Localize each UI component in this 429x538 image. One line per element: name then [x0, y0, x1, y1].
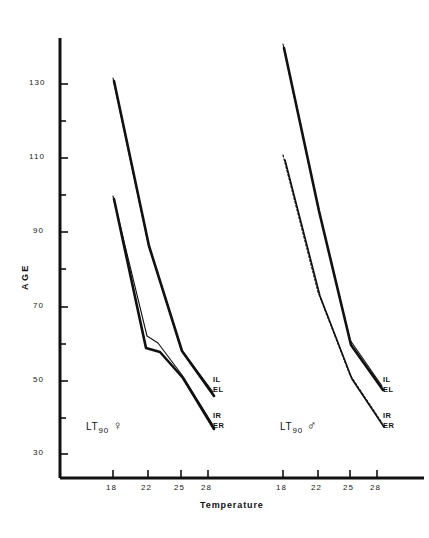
series-label-male-IR: IR	[383, 411, 391, 420]
curve-male-IR	[283, 155, 382, 423]
x-tick-label-female-28: 28	[201, 483, 212, 492]
x-axis-title: Temperature	[200, 500, 264, 510]
y-axis-title: AGE	[20, 263, 30, 290]
x-tick-label-male-28: 28	[370, 483, 381, 492]
x-tick-label-female-25: 25	[174, 483, 185, 492]
male-symbol-icon: ♂	[307, 418, 318, 433]
x-tick-label-male-22: 22	[311, 483, 322, 492]
curve-female-IL	[113, 78, 213, 392]
series-label-male-EL: EL	[383, 385, 393, 394]
figure-canvas: 130 110 90 70 50 30 AGE 18 22 25 28 18 2…	[0, 0, 429, 538]
series-label-male-IL: IL	[383, 375, 390, 384]
y-tick-label-110: 110	[29, 152, 45, 161]
curve-female-ER	[114, 199, 214, 429]
female-symbol-icon: ♀	[113, 418, 124, 433]
panel-annotation-male: LT90 ♂	[280, 418, 317, 435]
y-tick-label-70: 70	[33, 301, 44, 310]
series-label-female-IL: IL	[213, 375, 220, 384]
y-tick-label-130: 130	[29, 78, 46, 87]
series-label-female-ER: ER	[213, 421, 224, 430]
panel-annotation-female: LT90 ♀	[86, 418, 123, 435]
axis-lines	[60, 38, 424, 478]
panel-male-sub: 90	[293, 426, 304, 435]
curve-male-ER	[285, 160, 384, 427]
panel-female-prefix: LT	[86, 421, 99, 432]
panel-male-prefix: LT	[280, 421, 293, 432]
panel-female-sub: 90	[99, 426, 110, 435]
series-label-male-ER: ER	[383, 421, 394, 430]
series-label-female-EL: EL	[213, 385, 223, 394]
curve-female-IR	[113, 196, 213, 425]
y-tick-label-30: 30	[33, 448, 44, 457]
y-tick-label-50: 50	[33, 375, 44, 384]
x-tick-label-female-18: 18	[106, 483, 117, 492]
x-tick-label-male-25: 25	[343, 483, 354, 492]
y-tick-label-90: 90	[33, 226, 44, 235]
female-panel-curves	[113, 78, 214, 429]
chart-plot-area	[0, 0, 429, 538]
series-label-female-IR: IR	[213, 411, 221, 420]
curve-female-EL	[114, 81, 214, 396]
x-tick-label-male-18: 18	[276, 483, 287, 492]
male-panel-curves	[283, 44, 384, 427]
x-tick-label-female-22: 22	[141, 483, 152, 492]
